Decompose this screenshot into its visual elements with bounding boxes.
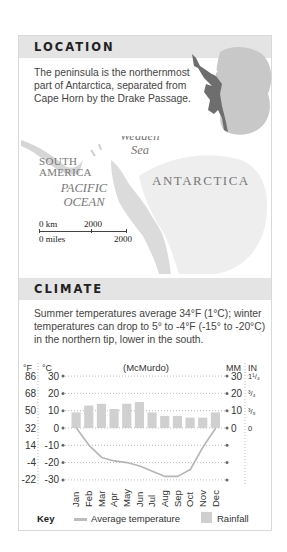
rainfall-bar xyxy=(173,416,182,428)
tick-label-f: -22 xyxy=(22,474,37,485)
tick-label-f: 86 xyxy=(25,371,37,382)
tick-label-c: 0 xyxy=(53,423,59,434)
tick-label-f: -4 xyxy=(27,457,36,468)
tick-label-mm: 10 xyxy=(231,405,243,416)
tick-label-f: 68 xyxy=(25,388,37,399)
rainfall-swatch xyxy=(201,512,212,523)
tick-label-mm: 0 xyxy=(231,423,237,434)
climate-chart: °F°C(McMurdo)MMIN86306820501032014-10-4-… xyxy=(19,36,271,532)
key-label: Key xyxy=(37,513,54,524)
tick-label-in: 1¹/₄ xyxy=(248,372,260,381)
info-card: LOCATION The peninsula is the northernmo… xyxy=(18,35,272,531)
month-label: Jul xyxy=(146,495,157,507)
chart-title: (McMurdo) xyxy=(123,362,169,373)
tick-label-f: 50 xyxy=(25,405,37,416)
tick-label-c: -20 xyxy=(45,457,60,468)
temperature-line xyxy=(76,428,215,476)
tick-dot xyxy=(62,444,65,447)
tick-dot xyxy=(226,478,229,481)
tick-label-in: 0 xyxy=(248,424,252,433)
rainfall-bar xyxy=(97,404,106,428)
month-label: Mar xyxy=(96,491,107,507)
tick-dot xyxy=(226,375,229,378)
rainfall-bar xyxy=(198,418,207,428)
month-label: Sep xyxy=(172,490,183,507)
key-temperature: Average temperature xyxy=(91,513,180,524)
month-label: Feb xyxy=(83,491,94,507)
temperature-line-swatch xyxy=(74,518,87,521)
month-label: Nov xyxy=(197,490,208,507)
rainfall-bar xyxy=(186,418,195,428)
rainfall-bar xyxy=(160,416,169,428)
tick-label-in: ³/₄ xyxy=(248,389,256,398)
rainfall-bar xyxy=(148,412,157,428)
tick-dot xyxy=(226,444,229,447)
tick-dot xyxy=(62,461,65,464)
tick-dot xyxy=(226,392,229,395)
rainfall-bar xyxy=(135,402,144,428)
tick-dot xyxy=(62,409,65,412)
tick-dot xyxy=(226,409,229,412)
tick-dot xyxy=(62,478,65,481)
tick-label-c: 30 xyxy=(48,371,60,382)
tick-label-c: -30 xyxy=(45,474,60,485)
tick-label-f: 32 xyxy=(25,423,37,434)
month-label: Aug xyxy=(159,490,170,507)
tick-label-mm: 30 xyxy=(231,371,243,382)
month-label: May xyxy=(121,489,132,507)
rainfall-bar xyxy=(72,412,81,428)
tick-label-c: 10 xyxy=(48,405,60,416)
month-label: Apr xyxy=(108,492,119,507)
month-label: Jun xyxy=(134,492,145,507)
tick-label-f: 14 xyxy=(25,440,37,451)
month-label: Dec xyxy=(210,490,221,507)
tick-dot xyxy=(62,375,65,378)
tick-label-in: ³/₈ xyxy=(248,407,256,416)
tick-dot xyxy=(226,461,229,464)
month-label: Jan xyxy=(70,492,81,507)
tick-label-c: -10 xyxy=(45,440,60,451)
rainfall-bar xyxy=(84,406,93,428)
tick-label-mm: 20 xyxy=(231,388,243,399)
tick-label-c: 20 xyxy=(48,388,60,399)
month-label: Oct xyxy=(184,492,195,507)
rainfall-bar xyxy=(110,409,119,428)
rainfall-bar xyxy=(211,412,220,428)
tick-dot xyxy=(62,427,65,430)
tick-dot xyxy=(62,392,65,395)
tick-dot xyxy=(226,427,229,430)
key-rainfall: Rainfall xyxy=(217,513,249,524)
rainfall-bar xyxy=(122,404,131,428)
